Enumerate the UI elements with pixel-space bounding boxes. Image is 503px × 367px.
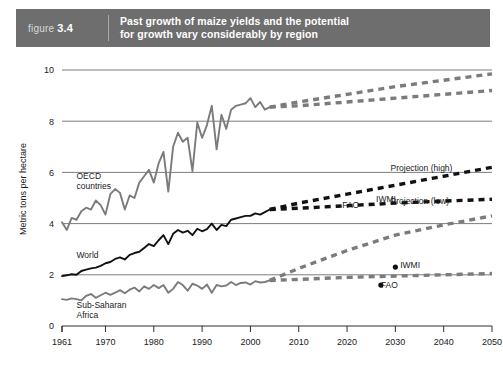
y-tick-label: 0 xyxy=(49,321,54,331)
y-tick-label: 6 xyxy=(49,168,54,178)
x-axis: 1961197019801990200020102020203020402050 xyxy=(52,326,502,347)
figure-number: figure 3.4 xyxy=(16,22,108,34)
chart-annotation: IWMI xyxy=(400,260,420,270)
series-line xyxy=(270,74,492,107)
figure-title-line-2: for growth vary considerably by region xyxy=(120,28,349,41)
y-tick-label: 10 xyxy=(44,65,54,75)
x-tick-label: 2010 xyxy=(289,337,309,347)
series-line xyxy=(270,216,492,281)
figure-title: Past growth of maize yields and the pote… xyxy=(120,15,357,41)
figure-title-line-1: Past growth of maize yields and the pote… xyxy=(120,15,349,28)
chart-annotation: Sub-SaharanAfrica xyxy=(76,300,126,321)
chart-annotation: World xyxy=(76,250,98,260)
chart-annotation: FAO xyxy=(381,280,398,290)
x-tick-label: 2050 xyxy=(482,337,502,347)
figure-root: figure 3.4 Past growth of maize yields a… xyxy=(0,0,503,367)
y-tick-label: 2 xyxy=(49,270,54,280)
series-lines xyxy=(62,74,492,301)
x-tick-label: 1970 xyxy=(95,337,115,347)
y-tick-label: 4 xyxy=(49,219,54,229)
chart-annotation: FAO xyxy=(342,200,359,210)
chart-annotation: OECDcountries xyxy=(76,171,111,192)
series-line xyxy=(62,98,270,230)
data-point-marker xyxy=(393,265,398,270)
series-line xyxy=(62,280,270,300)
series-line xyxy=(62,210,270,277)
x-tick-label: 2040 xyxy=(434,337,454,347)
x-tick-label: 1990 xyxy=(192,337,212,347)
chart-annotation: Projection (low) xyxy=(391,196,450,206)
chart-annotation: Projection (high) xyxy=(391,163,453,173)
header-divider xyxy=(108,15,109,41)
figure-header-band: figure 3.4 Past growth of maize yields a… xyxy=(16,9,490,47)
series-line xyxy=(270,90,492,107)
x-tick-label: 1961 xyxy=(52,337,72,347)
chart-annotations: OECDcountriesWorldSub-SaharanAfricaProje… xyxy=(76,163,452,320)
y-tick-labels: 0246810 xyxy=(44,65,54,331)
x-tick-label: 2020 xyxy=(337,337,357,347)
x-tick-label: 2030 xyxy=(385,337,405,347)
y-tick-label: 8 xyxy=(49,117,54,127)
x-tick-label: 1980 xyxy=(144,337,164,347)
chart-svg: 0246810 19611970198019902000201020202030… xyxy=(0,52,503,367)
x-tick-label: 2000 xyxy=(240,337,260,347)
figure-number-value: 3.4 xyxy=(57,22,73,34)
chart-area: Metric tons per hectare 0246810 19611970… xyxy=(0,52,503,367)
chart-annotation: IWMI xyxy=(376,194,396,204)
figure-word: figure xyxy=(28,23,54,34)
